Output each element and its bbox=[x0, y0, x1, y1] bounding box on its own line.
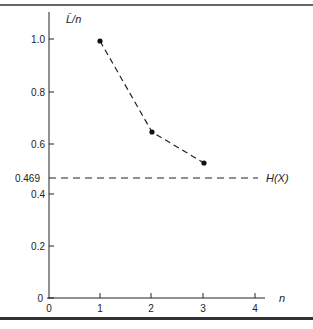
y-tick-label-0: 0 bbox=[37, 293, 43, 304]
x-tick-label-0: 0 bbox=[46, 303, 52, 314]
x-tick-label-3: 3 bbox=[200, 303, 206, 314]
series-line bbox=[100, 41, 204, 163]
y-tick-label-1.0: 1.0 bbox=[31, 34, 45, 45]
x-tick-label-1: 1 bbox=[97, 303, 103, 314]
y-tick-label-0.2: 0.2 bbox=[31, 241, 45, 252]
reference-line-label: H(X) bbox=[266, 172, 289, 184]
bottom-border bbox=[0, 317, 313, 320]
data-point-n3 bbox=[201, 160, 206, 165]
y-tick-label-0.8: 0.8 bbox=[31, 87, 45, 98]
x-ticks bbox=[100, 293, 255, 298]
y-axis-label: L̄/n bbox=[66, 13, 81, 25]
x-tick-label-4: 4 bbox=[252, 303, 258, 314]
y-ticks bbox=[49, 39, 54, 298]
data-point-n1 bbox=[97, 38, 102, 43]
chart: 0 0.2 0.4 0.6 0.8 1.0 0 1 2 3 4 L̄/n n 0… bbox=[0, 0, 313, 329]
y-tick-label-0.6: 0.6 bbox=[31, 139, 45, 150]
x-axis-label: n bbox=[279, 292, 285, 304]
x-tick-label-2: 2 bbox=[148, 303, 154, 314]
y-tick-label-0.4: 0.4 bbox=[31, 189, 45, 200]
data-point-n2 bbox=[149, 129, 154, 134]
reference-value-label: 0.469 bbox=[15, 173, 40, 184]
